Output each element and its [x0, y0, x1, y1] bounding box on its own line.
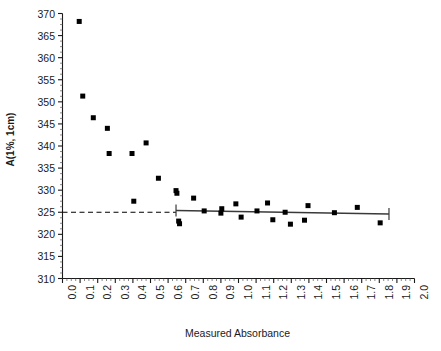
scatter-chart: A(1%, 1cm) 31031532032533033534034535035… — [0, 0, 441, 351]
data-point — [283, 210, 288, 215]
data-point — [202, 208, 207, 213]
data-point — [105, 126, 110, 131]
data-point — [288, 222, 293, 227]
data-point — [144, 140, 149, 145]
data-point — [156, 176, 161, 181]
fit-line-segment — [176, 210, 389, 214]
data-point — [332, 210, 337, 215]
data-point — [191, 196, 196, 201]
plot-area — [0, 0, 441, 351]
data-point — [270, 217, 275, 222]
axis-lines — [63, 14, 415, 279]
data-point — [219, 206, 224, 211]
data-point — [233, 201, 238, 206]
data-point — [107, 151, 112, 156]
y-axis-major-ticks — [58, 14, 63, 279]
data-point — [130, 151, 135, 156]
data-point — [265, 200, 270, 205]
x-axis-major-ticks — [63, 279, 415, 284]
data-point — [91, 115, 96, 120]
data-point — [80, 94, 85, 99]
data-point-series — [77, 19, 383, 227]
data-point — [302, 218, 307, 223]
data-point — [239, 215, 244, 220]
data-point — [176, 219, 181, 224]
data-point — [131, 199, 136, 204]
data-point — [355, 205, 360, 210]
data-point — [218, 211, 223, 216]
data-point — [174, 191, 179, 196]
data-point — [306, 203, 311, 208]
data-point — [378, 220, 383, 225]
data-point — [77, 19, 82, 24]
data-point — [254, 208, 259, 213]
